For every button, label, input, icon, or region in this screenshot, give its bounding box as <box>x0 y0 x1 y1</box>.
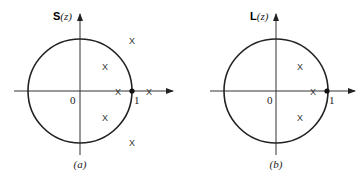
pole-cross: X <box>297 113 303 123</box>
function-arg: (z) <box>60 10 72 23</box>
unit-label: 1 <box>329 94 335 106</box>
caption: (b) <box>270 158 283 171</box>
point-one-marker <box>129 88 134 93</box>
unit-label: 1 <box>134 94 140 106</box>
point-one-marker <box>324 88 329 93</box>
pole-cross: X <box>129 36 135 46</box>
pole-cross: X <box>102 62 108 72</box>
function-symbol: S <box>53 10 60 22</box>
pole-crosses: X X X <box>297 62 316 123</box>
pole-cross: X <box>115 87 121 97</box>
pole-cross: X <box>310 87 316 97</box>
origin-label: 0 <box>267 94 273 106</box>
function-label: L(z) <box>250 10 269 23</box>
pole-cross: X <box>146 87 152 97</box>
pole-cross: X <box>102 113 108 123</box>
pole-crosses: X X X X X X <box>102 36 152 148</box>
function-arg: (z) <box>257 10 269 23</box>
pole-cross: X <box>129 138 135 148</box>
diagram-canvas: 0 1 S(z) X X X X X X (a) 0 1 L(z) X X X … <box>0 0 360 184</box>
panel-a: 0 1 S(z) X X X X X X (a) <box>14 10 173 171</box>
caption: (a) <box>74 158 87 171</box>
pole-cross: X <box>297 62 303 72</box>
function-label: S(z) <box>53 10 72 23</box>
origin-label: 0 <box>70 94 76 106</box>
panel-b: 0 1 L(z) X X X (b) <box>210 10 355 171</box>
